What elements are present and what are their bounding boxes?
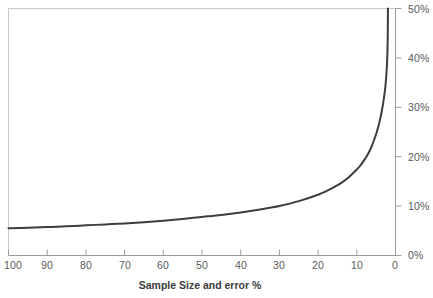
x-tick-label-10: 10 — [351, 259, 363, 271]
x-tick-label-80: 80 — [80, 259, 92, 271]
x-tick-label-90: 90 — [41, 259, 53, 271]
y-tick-label-10: 10% — [408, 200, 429, 212]
y-tick-label-30: 30% — [408, 101, 429, 113]
y-tick-label-0: 0% — [408, 249, 423, 261]
x-tick-label-20: 20 — [312, 259, 324, 271]
x-tick-label-50: 50 — [196, 259, 208, 271]
y-axis-ticks — [396, 9, 402, 256]
data-series-line — [9, 9, 388, 229]
x-tick-label-60: 60 — [157, 259, 169, 271]
y-tick-label-50: 50% — [408, 3, 429, 15]
x-tick-label-70: 70 — [119, 259, 131, 271]
y-tick-label-20: 20% — [408, 151, 429, 163]
chart-plot-area — [0, 0, 433, 298]
chart-container: 0% 10% 20% 30% 40% 50% 100 90 80 70 60 5… — [0, 0, 433, 298]
x-axis-ticks — [9, 250, 396, 256]
x-tick-label-100: 100 — [4, 259, 22, 271]
y-tick-label-40: 40% — [408, 52, 429, 64]
x-axis-title: Sample Size and error % — [0, 279, 400, 291]
x-tick-label-0: 0 — [392, 259, 398, 271]
x-tick-label-40: 40 — [235, 259, 247, 271]
x-tick-label-30: 30 — [273, 259, 285, 271]
